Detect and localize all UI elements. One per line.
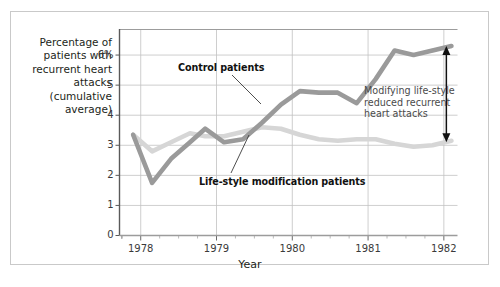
y-tick-label: 1 <box>78 199 114 210</box>
y-tick-label: 4 <box>78 109 114 120</box>
x-tick-label: 1980 <box>272 243 312 254</box>
y-tick-label: 2 <box>78 169 114 180</box>
y-tick-label: 5 <box>78 79 114 90</box>
leader-line-control <box>232 75 261 104</box>
y-tick-label: 3 <box>78 139 114 150</box>
x-tick-label: 1978 <box>121 243 161 254</box>
series-label-lifestyle: Life-style modification patients <box>199 176 365 187</box>
leader-lines <box>231 75 261 173</box>
chart-figure-page: Percentage of patients with recurrent he… <box>0 0 500 287</box>
x-tick-label: 1982 <box>424 243 464 254</box>
x-tick-label: 1981 <box>348 243 388 254</box>
x-axis-title: Year <box>0 258 500 271</box>
x-tick-label: 1979 <box>197 243 237 254</box>
series-label-control: Control patients <box>178 62 264 73</box>
y-tick-label: 0 <box>78 229 114 240</box>
y-tick-label: 6% <box>78 49 114 60</box>
annotation-text: Modifying life-style reduced recurrent h… <box>364 85 456 120</box>
